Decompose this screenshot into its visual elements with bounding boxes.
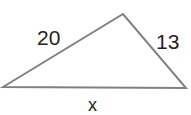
side-length-label-base: x [88,96,97,114]
side-length-label-right: 13 [156,31,179,52]
side-length-label-left: 20 [37,27,60,48]
triangle-figure: 20 13 x [0,0,191,115]
